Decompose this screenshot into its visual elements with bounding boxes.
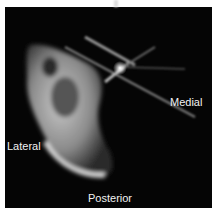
top-marker	[114, 0, 118, 7]
lateral-label: Lateral	[7, 140, 41, 152]
posterior-label: Posterior	[88, 192, 132, 204]
ct-scan-image: Medial Lateral Posterior	[5, 7, 212, 208]
medial-label: Medial	[170, 96, 202, 108]
